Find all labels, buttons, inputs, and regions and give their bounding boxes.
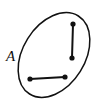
horizontal-segment xyxy=(30,77,65,79)
vertical-segment-endpoint-top xyxy=(70,21,75,26)
region-label-a: A xyxy=(5,48,16,64)
horizontal-segment-endpoint-left xyxy=(27,76,32,81)
geometry-diagram: A xyxy=(0,0,104,110)
figure-canvas: A xyxy=(0,0,104,110)
region-ellipse xyxy=(3,0,104,110)
vertical-segment xyxy=(72,24,73,58)
horizontal-segment-endpoint-right xyxy=(62,74,67,79)
vertical-segment-endpoint-bottom xyxy=(69,55,74,60)
